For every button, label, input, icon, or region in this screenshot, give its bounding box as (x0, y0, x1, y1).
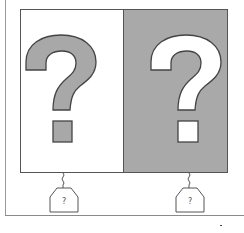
left-hanging-tag (50, 173, 78, 212)
left-tag-label: ? (50, 197, 78, 206)
right-question-mark-icon (151, 35, 221, 142)
right-hanging-tag (176, 173, 204, 212)
left-question-mark-icon (26, 35, 96, 142)
right-tag-label: ? (176, 197, 204, 206)
diagram-graphics (0, 0, 244, 233)
stray-mark (220, 225, 222, 226)
